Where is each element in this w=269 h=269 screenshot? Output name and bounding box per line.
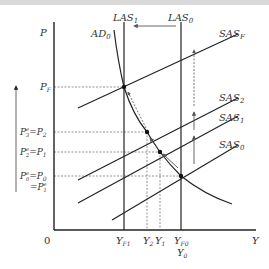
- p0-expected-label: =Pe1: [30, 181, 47, 193]
- as-ad-diagram: P Y 0 LAS1 LAS0 AD0 SASF SAS2 SAS1 SAS0 …: [0, 0, 269, 269]
- origin-label: 0: [44, 235, 50, 246]
- ad0-curve: [114, 30, 232, 204]
- yf0-label: YF0: [174, 235, 189, 247]
- sasf-label: SASF: [219, 28, 246, 41]
- ad0-label: AD0: [90, 28, 111, 41]
- yf1-label: YF1: [116, 235, 131, 247]
- y-axis-label: P: [39, 27, 47, 38]
- path-arrow-icon: [163, 154, 178, 168]
- sas2-label: SAS2: [219, 92, 245, 105]
- x-axis-label: Y: [252, 235, 260, 246]
- equilibrium-point-f: [122, 85, 126, 89]
- sas0-line: [112, 145, 238, 220]
- sasf-line: [78, 34, 238, 108]
- las0-label: LAS0: [167, 12, 194, 25]
- p1-label: Pe2=P1: [19, 146, 47, 158]
- sas0-label: SAS0: [219, 139, 245, 152]
- path-dashed-arrow-icon: [128, 92, 146, 128]
- sas1-label: SAS1: [219, 112, 244, 125]
- guide-lines: [54, 87, 181, 230]
- pf-label: PF: [39, 81, 52, 93]
- equilibrium-point-0: [179, 174, 183, 178]
- y2-label: Y2: [143, 235, 154, 247]
- sas2-line: [78, 98, 238, 180]
- y0-label: Y0: [177, 247, 188, 259]
- p2-label: Pe3=P2: [19, 126, 47, 138]
- y1-label: Y1: [155, 235, 165, 247]
- equilibrium-point-2: [145, 130, 149, 134]
- equilibrium-point-1: [158, 150, 162, 154]
- las1-label: LAS1: [112, 12, 138, 25]
